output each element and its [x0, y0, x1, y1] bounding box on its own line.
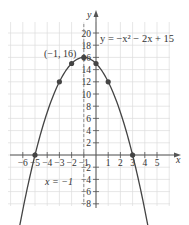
x-tick-label: 2: [118, 158, 123, 168]
data-point: [130, 152, 135, 157]
x-tick-label: −2: [67, 158, 77, 168]
data-point: [81, 55, 86, 60]
y-tick-label: 20: [82, 29, 92, 39]
x-tick-label: 4: [142, 158, 147, 168]
x-tick-label: 1: [106, 158, 111, 168]
x-axis-label: x: [175, 154, 181, 165]
y-tick-label: −4: [81, 175, 91, 185]
y-tick-label: −8: [81, 199, 91, 209]
equation-label: y = −x² − 2x + 15: [100, 33, 174, 44]
data-point: [57, 79, 62, 84]
data-point: [32, 152, 37, 157]
x-tick-label: −3: [54, 158, 64, 168]
y-axis-label: y: [86, 9, 92, 20]
y-tick-label: 10: [82, 90, 92, 100]
data-point: [106, 79, 111, 84]
data-point: [93, 61, 98, 66]
annotations: y = −x² − 2x + 15 (−1, 16) x = −1 x y: [44, 9, 181, 187]
y-tick-label: 12: [82, 77, 92, 87]
y-tick-label: −2: [81, 163, 91, 173]
y-tick-label: 4: [86, 126, 91, 136]
y-tick-label: −6: [81, 187, 91, 197]
x-tick-label: −5: [30, 158, 40, 168]
x-tick-label: 5: [155, 158, 160, 168]
y-tick-label: 14: [82, 65, 92, 75]
axis-of-symmetry-label: x = −1: [44, 176, 73, 187]
chart-canvas: −6−5−4−3−2−112345−8−6−4−2246810121416182…: [0, 0, 189, 225]
x-tick-label: −6: [18, 158, 28, 168]
x-tick-label: −4: [42, 158, 52, 168]
y-tick-label: 18: [82, 41, 92, 51]
vertex-label: (−1, 16): [44, 48, 76, 60]
y-axis-arrow-icon: [94, 10, 99, 17]
parabola-chart: −6−5−4−3−2−112345−8−6−4−2246810121416182…: [0, 0, 189, 225]
data-point: [69, 61, 74, 66]
y-tick-label: 6: [86, 114, 91, 124]
y-tick-label: 8: [86, 102, 91, 112]
y-tick-label: 2: [86, 138, 91, 148]
